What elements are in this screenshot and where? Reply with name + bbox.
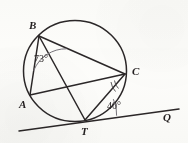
point-label-T: T [81, 126, 88, 137]
point-label-B: B [29, 20, 36, 31]
point-label-Q: Q [163, 112, 171, 123]
chord-AC [30, 74, 125, 95]
angle-label-73: 73° [34, 54, 48, 64]
point-label-A: A [19, 99, 26, 110]
tangent-TQ [19, 109, 179, 131]
tangent-line-group [19, 109, 179, 131]
angle-label-40: 40° [107, 101, 121, 111]
chord-BC [39, 36, 125, 74]
point-label-C: C [132, 66, 139, 77]
geometry-figure: B C A T Q 73° 40° [0, 0, 188, 143]
